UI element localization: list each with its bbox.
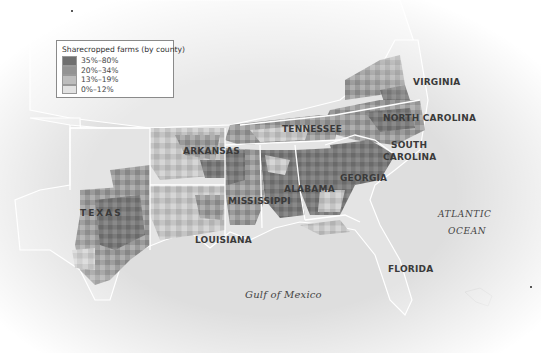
- label-north-carolina: NORTH CAROLINA: [383, 113, 476, 123]
- legend-title: Sharecropped farms (by county): [62, 45, 168, 54]
- legend-label: 0%–12%: [81, 85, 114, 94]
- label-arkansas: ARKANSAS: [183, 146, 240, 156]
- legend-swatch-dark: [62, 56, 77, 66]
- label-texas: TEXAS: [80, 208, 123, 218]
- legend-swatch-light: [62, 75, 77, 85]
- label-atlantic-ocean-2: OCEAN: [448, 226, 486, 236]
- label-tennessee: TENNESSEE: [282, 124, 342, 134]
- label-florida: FLORIDA: [388, 264, 433, 274]
- legend-row-13-19: 13%–19%: [62, 75, 168, 85]
- speck: [71, 10, 73, 12]
- label-atlantic-ocean-1: ATLANTIC: [438, 209, 492, 219]
- legend-swatch-lightest: [62, 85, 77, 95]
- speck: [530, 286, 532, 288]
- label-mississippi: MISSISSIPPI: [228, 196, 291, 206]
- label-louisiana: LOUISIANA: [195, 235, 252, 245]
- legend-label: 35%–80%: [81, 56, 119, 65]
- legend-row-35-80: 35%–80%: [62, 56, 168, 66]
- label-virginia: VIRGINIA: [413, 77, 460, 87]
- legend: Sharecropped farms (by county) 35%–80% 2…: [56, 40, 174, 98]
- legend-label: 20%–34%: [81, 66, 119, 75]
- legend-row-0-12: 0%–12%: [62, 85, 168, 95]
- label-south-carolina-2: CAROLINA: [383, 152, 436, 162]
- label-south-carolina-1: SOUTH: [391, 140, 427, 150]
- label-alabama: ALABAMA: [284, 184, 335, 194]
- legend-row-20-34: 20%–34%: [62, 66, 168, 76]
- label-gulf-of-mexico: Gulf of Mexico: [245, 289, 322, 300]
- legend-swatch-medium: [62, 66, 77, 76]
- legend-label: 13%–19%: [81, 75, 119, 84]
- label-georgia: GEORGIA: [340, 173, 387, 183]
